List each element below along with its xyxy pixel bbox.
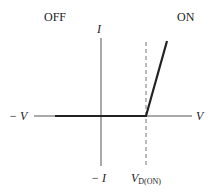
diode-iv-diagram: OFF ON I − V V − I VD(ON)	[0, 0, 210, 192]
on-region-label: ON	[177, 11, 194, 23]
iv-curve	[55, 41, 167, 116]
x-negative-label: − V	[9, 110, 27, 122]
von-label: VD(ON)	[131, 172, 161, 186]
diagram-graphics	[0, 0, 210, 192]
x-positive-label: V	[196, 110, 203, 122]
y-negative-label: − I	[91, 172, 106, 184]
off-region-label: OFF	[44, 11, 66, 23]
von-label-subscript: D(ON)	[138, 177, 161, 186]
y-positive-label: I	[97, 23, 101, 35]
